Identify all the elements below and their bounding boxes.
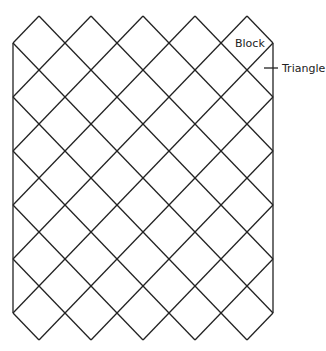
grid-line — [117, 232, 143, 259]
grid-line — [13, 124, 39, 151]
grid-line — [247, 70, 273, 97]
grid-line — [195, 259, 221, 286]
grid-line — [221, 97, 247, 124]
grid-line — [65, 151, 91, 178]
grid-line — [143, 178, 169, 205]
grid-line — [65, 259, 91, 286]
grid-line — [169, 16, 195, 43]
block-label: Block — [235, 37, 265, 50]
grid-line — [117, 97, 143, 124]
grid-line — [169, 43, 195, 70]
grid-line — [91, 286, 117, 313]
grid-line — [13, 205, 39, 232]
grid-line — [117, 313, 143, 340]
grid-line — [247, 286, 273, 313]
grid-line — [169, 178, 195, 205]
grid-line — [221, 286, 247, 313]
grid-line — [65, 313, 91, 340]
grid-line — [143, 70, 169, 97]
grid-line — [221, 178, 247, 205]
grid-line — [221, 313, 247, 340]
grid-line — [195, 124, 221, 151]
grid-line — [117, 178, 143, 205]
grid-line — [117, 124, 143, 151]
grid-line — [65, 178, 91, 205]
grid-line — [143, 16, 169, 43]
grid-line — [169, 124, 195, 151]
grid-line — [91, 205, 117, 232]
grid-line — [117, 259, 143, 286]
grid-line — [247, 178, 273, 205]
grid-line — [117, 286, 143, 313]
grid-line — [13, 43, 39, 70]
grid-line — [221, 151, 247, 178]
grid-line — [65, 16, 91, 43]
grid-line — [143, 232, 169, 259]
grid-line — [39, 232, 65, 259]
grid-line — [65, 43, 91, 70]
grid-line — [65, 286, 91, 313]
grid-line — [39, 286, 65, 313]
grid-line — [195, 151, 221, 178]
grid-line — [143, 124, 169, 151]
grid-line — [195, 97, 221, 124]
grid-line — [39, 205, 65, 232]
grid-line — [39, 70, 65, 97]
grid-line — [169, 232, 195, 259]
grid-line — [13, 70, 39, 97]
grid-line — [195, 286, 221, 313]
grid-line — [143, 286, 169, 313]
grid-line — [13, 16, 39, 43]
grid-line — [221, 259, 247, 286]
grid-line — [13, 232, 39, 259]
grid-line — [195, 205, 221, 232]
grid-line — [13, 313, 39, 340]
grid-line — [91, 178, 117, 205]
grid-line — [91, 259, 117, 286]
grid-line — [195, 313, 221, 340]
grid-line — [169, 313, 195, 340]
grid-line — [65, 205, 91, 232]
grid-line — [39, 97, 65, 124]
grid-line — [39, 124, 65, 151]
grid-line — [117, 70, 143, 97]
grid-line — [143, 205, 169, 232]
grid-line — [247, 232, 273, 259]
grid-line — [91, 43, 117, 70]
grid-line — [39, 313, 65, 340]
grid-line — [195, 178, 221, 205]
grid-line — [247, 97, 273, 124]
grid-line — [143, 151, 169, 178]
grid-line — [169, 151, 195, 178]
grid-line — [13, 151, 39, 178]
grid-line — [117, 151, 143, 178]
grid-line — [143, 313, 169, 340]
grid-line — [117, 205, 143, 232]
grid-line — [169, 286, 195, 313]
grid-line — [39, 16, 65, 43]
grid-line — [221, 232, 247, 259]
grid-line — [169, 259, 195, 286]
grid-line — [13, 259, 39, 286]
grid-line — [143, 97, 169, 124]
grid-line — [247, 205, 273, 232]
grid-line — [65, 70, 91, 97]
grid-line — [91, 70, 117, 97]
grid-line — [221, 124, 247, 151]
grid-line — [117, 16, 143, 43]
grid-line — [221, 205, 247, 232]
grid-line — [39, 178, 65, 205]
grid-line — [91, 232, 117, 259]
grid-line — [91, 124, 117, 151]
grid-line — [91, 16, 117, 43]
grid-line — [65, 97, 91, 124]
diamond-grid — [13, 16, 273, 340]
grid-line — [117, 43, 143, 70]
grid-line — [13, 97, 39, 124]
grid-line — [13, 286, 39, 313]
triangle-label: Triangle — [281, 62, 325, 75]
grid-line — [169, 205, 195, 232]
grid-line — [91, 313, 117, 340]
grid-line — [169, 97, 195, 124]
quilt-diagram: Block Triangle — [0, 0, 326, 351]
